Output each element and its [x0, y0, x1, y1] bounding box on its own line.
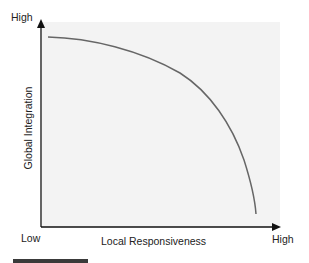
x-axis-title: Local Responsiveness — [101, 236, 206, 247]
chart-canvas — [0, 0, 309, 263]
x-axis-arrow-icon — [272, 223, 281, 231]
y-axis-arrow-icon — [37, 19, 45, 28]
frontier-curve — [48, 37, 256, 214]
x-axis-low-label: Low — [21, 233, 40, 244]
y-axis-high-label: High — [11, 12, 33, 23]
y-axis-title: Global Integration — [23, 87, 34, 170]
footer-bar — [13, 259, 88, 263]
x-axis-high-label: High — [272, 234, 294, 245]
